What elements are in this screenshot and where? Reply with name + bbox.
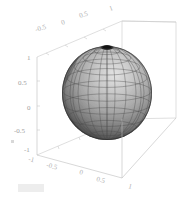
z-tick-3: -0.5 xyxy=(14,127,26,135)
faint-artifact xyxy=(18,184,44,192)
x-tick-1: -0.5 xyxy=(46,161,59,172)
z-axis-tick-labels: 1 0.5 0 -0.5 -1 xyxy=(14,54,31,154)
stray-dot xyxy=(11,140,14,143)
z-tick-0: 1 xyxy=(27,54,31,62)
y-tick-1: 0 xyxy=(60,18,66,27)
x-tick-0: -1 xyxy=(28,155,36,164)
x-tick-2: 0 xyxy=(79,168,85,177)
z-tick-1: 0.5 xyxy=(18,79,27,87)
y-tick-3: 1 xyxy=(108,4,114,13)
sphere-3d-figure: -0.5 0 0.5 1 1 0.5 0 -0.5 -1 -1 -0.5 0 0… xyxy=(0,0,192,202)
y-tick-2: 0.5 xyxy=(78,9,89,19)
z-tick-2: 0 xyxy=(27,104,31,112)
z-tick-4: -1 xyxy=(24,146,30,154)
x-tick-3: 0.5 xyxy=(96,175,107,185)
sphere-surface xyxy=(62,45,152,141)
y-tick-0: -0.5 xyxy=(34,23,47,34)
plot-canvas: -0.5 0 0.5 1 1 0.5 0 -0.5 -1 -1 -0.5 0 0… xyxy=(0,0,192,202)
north-pole-core xyxy=(103,45,111,48)
x-tick-4: 1 xyxy=(128,182,134,191)
